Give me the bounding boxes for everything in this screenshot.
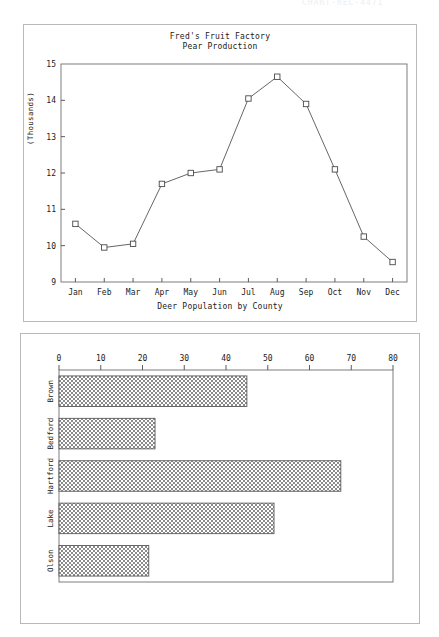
data-point-marker	[73, 221, 78, 226]
y-tick-label: 9	[51, 278, 56, 287]
x-tick-label: 80	[388, 354, 398, 363]
x-tick-label: May	[184, 288, 199, 297]
x-tick-label: 50	[263, 354, 273, 363]
bar-chart-plot: 01020304050607080BrownBedfordHartfordLak…	[21, 334, 419, 623]
data-point-marker	[102, 245, 107, 250]
y-tick-label: 15	[46, 60, 56, 69]
data-point-marker	[130, 241, 135, 246]
x-tick-label: Jan	[68, 288, 83, 297]
x-tick-label: Mar	[126, 288, 141, 297]
bar-category-label: Brown	[46, 380, 55, 403]
data-point-marker	[217, 167, 222, 172]
bar-category-label: Bedford	[46, 418, 55, 450]
x-tick-label: 0	[57, 354, 62, 363]
bar	[59, 461, 341, 492]
x-tick-label: Sep	[299, 288, 314, 297]
bar	[59, 503, 274, 534]
line-chart-plot: 9101112131415JanFebMarAprMayJunJulAugSep…	[24, 25, 416, 321]
data-point-marker	[188, 170, 193, 175]
bar-category-label: Olson	[46, 550, 55, 573]
bar	[59, 376, 247, 407]
x-tick-label: 30	[179, 354, 189, 363]
x-tick-label: Jul	[241, 288, 256, 297]
bar-category-label: Lake	[46, 509, 55, 528]
data-point-marker	[332, 167, 337, 172]
data-point-marker	[275, 74, 280, 79]
line-series	[75, 77, 392, 262]
x-tick-label: Dec	[385, 288, 400, 297]
data-point-marker	[246, 96, 251, 101]
x-tick-label: Feb	[97, 288, 112, 297]
data-point-marker	[390, 259, 395, 264]
faint-header-text: CHART-REC-4471	[302, 0, 434, 8]
y-tick-label: 10	[46, 242, 56, 251]
x-tick-label: 20	[138, 354, 148, 363]
bar-chart-panel: 01020304050607080BrownBedfordHartfordLak…	[20, 333, 420, 624]
x-tick-label: 40	[221, 354, 231, 363]
y-tick-label: 11	[46, 205, 56, 214]
data-point-marker	[303, 101, 308, 106]
x-tick-label: Aug	[270, 288, 285, 297]
x-tick-label: 60	[305, 354, 315, 363]
y-tick-label: 12	[46, 169, 56, 178]
data-point-marker	[159, 181, 164, 186]
x-tick-label: Nov	[357, 288, 372, 297]
bar	[59, 546, 149, 577]
x-tick-label: 70	[346, 354, 356, 363]
x-tick-label: Jun	[212, 288, 227, 297]
x-tick-label: 10	[96, 354, 106, 363]
line-chart-panel: Fred's Fruit Factory Pear Production (Th…	[23, 24, 417, 322]
bar	[59, 418, 155, 449]
y-tick-label: 14	[46, 96, 56, 105]
x-tick-label: Oct	[328, 288, 343, 297]
y-tick-label: 13	[46, 133, 56, 142]
bar-category-label: Hartford	[46, 458, 55, 494]
line-plot-frame	[61, 64, 407, 282]
data-point-marker	[361, 234, 366, 239]
x-tick-label: Apr	[155, 288, 170, 297]
